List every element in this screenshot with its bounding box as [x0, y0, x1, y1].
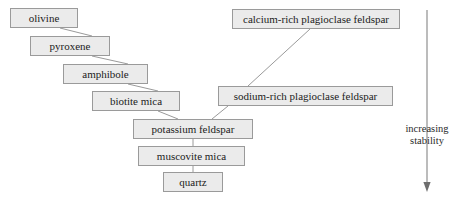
connector-olivine-to-pyroxene — [60, 28, 92, 36]
node-label: amphibole — [82, 69, 128, 80]
node-label: muscovite mica — [157, 151, 226, 162]
axis-label-line-1: increasing — [392, 123, 462, 135]
node-muscovite-mica: muscovite mica — [138, 146, 245, 166]
node-sodium-rich-plagioclase-feldspar: sodium-rich plagioclase feldspar — [218, 86, 393, 106]
node-olivine: olivine — [10, 8, 78, 28]
node-label: biotite mica — [110, 96, 162, 107]
increasing-stability-arrow — [423, 10, 430, 192]
node-label: calcium-rich plagioclase feldspar — [243, 14, 389, 25]
increasing-stability-label: increasing stability — [392, 123, 462, 147]
connector-sodium-rich-plagioclase-feldspar-to-potassium-feldspar — [212, 106, 228, 119]
node-label: pyroxene — [50, 41, 91, 52]
node-quartz: quartz — [163, 172, 223, 192]
connector-biotite-mica-to-potassium-feldspar — [158, 111, 178, 119]
connector-calcium-rich-plagioclase-feldspar-to-sodium-rich-plagioclase-feldspar — [248, 29, 310, 86]
node-label: potassium feldspar — [152, 124, 235, 135]
node-label: quartz — [179, 177, 206, 188]
node-label: olivine — [29, 13, 60, 24]
node-calcium-rich-plagioclase-feldspar: calcium-rich plagioclase feldspar — [232, 9, 400, 29]
bowens-reaction-series-diagram: olivine pyroxene amphibole biotite mica … — [0, 0, 462, 206]
node-biotite-mica: biotite mica — [92, 91, 180, 111]
connector-amphibole-to-biotite-mica — [128, 84, 158, 91]
node-amphibole: amphibole — [63, 64, 148, 84]
node-label: sodium-rich plagioclase feldspar — [234, 91, 378, 102]
axis-label-line-2: stability — [392, 135, 462, 147]
node-potassium-feldspar: potassium feldspar — [133, 119, 253, 139]
connector-pyroxene-to-amphibole — [92, 56, 128, 64]
node-pyroxene: pyroxene — [30, 36, 110, 56]
